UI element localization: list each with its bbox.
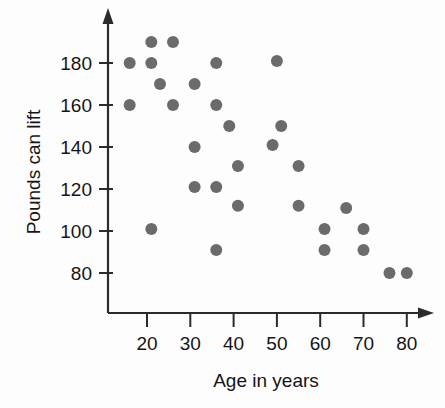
data-point (167, 99, 179, 111)
data-point (293, 160, 305, 172)
data-point (210, 181, 222, 193)
y-axis-title: Pounds can lift (23, 109, 44, 234)
x-tick-label: 70 (353, 333, 374, 354)
data-point (145, 223, 157, 235)
data-point (145, 36, 157, 48)
data-point (383, 267, 395, 279)
x-tick-label: 30 (180, 333, 201, 354)
y-tick-group: 80100120140160180 (60, 53, 113, 284)
data-point (189, 181, 201, 193)
x-axis-arrow-icon (418, 308, 434, 319)
x-tick-label: 60 (310, 333, 331, 354)
data-point (189, 141, 201, 153)
data-point (154, 78, 166, 90)
x-tick-label: 50 (266, 333, 287, 354)
data-point (271, 55, 283, 67)
y-axis-arrow-icon (103, 8, 114, 24)
data-point (319, 223, 331, 235)
y-tick-label: 140 (60, 137, 92, 158)
data-point (275, 120, 287, 132)
data-point (210, 57, 222, 69)
data-point (189, 78, 201, 90)
data-point (124, 57, 136, 69)
data-point (210, 99, 222, 111)
data-point (145, 57, 157, 69)
y-axis (103, 8, 114, 313)
x-tick-group: 20304050607080 (136, 313, 417, 354)
y-tick-label: 180 (60, 53, 92, 74)
scatter-plot-figure: 80100120140160180 20304050607080 Pounds … (0, 0, 445, 408)
data-point (319, 244, 331, 256)
y-tick-label: 160 (60, 95, 92, 116)
data-point (223, 120, 235, 132)
data-point (340, 202, 352, 214)
data-point (358, 223, 370, 235)
data-point (232, 160, 244, 172)
y-tick-label: 80 (71, 263, 92, 284)
data-point (293, 200, 305, 212)
data-point (358, 244, 370, 256)
x-tick-label: 20 (136, 333, 157, 354)
y-tick-label: 120 (60, 179, 92, 200)
data-point (167, 36, 179, 48)
x-tick-label: 80 (396, 333, 417, 354)
x-tick-label: 40 (223, 333, 244, 354)
data-point (267, 139, 279, 151)
x-axis-title: Age in years (213, 370, 319, 391)
plot-canvas: 80100120140160180 20304050607080 Pounds … (0, 0, 445, 408)
data-point (401, 267, 413, 279)
y-tick-label: 100 (60, 221, 92, 242)
data-point (232, 200, 244, 212)
data-point-group (124, 36, 413, 279)
data-point (124, 99, 136, 111)
data-point (210, 244, 222, 256)
x-axis (108, 308, 434, 319)
